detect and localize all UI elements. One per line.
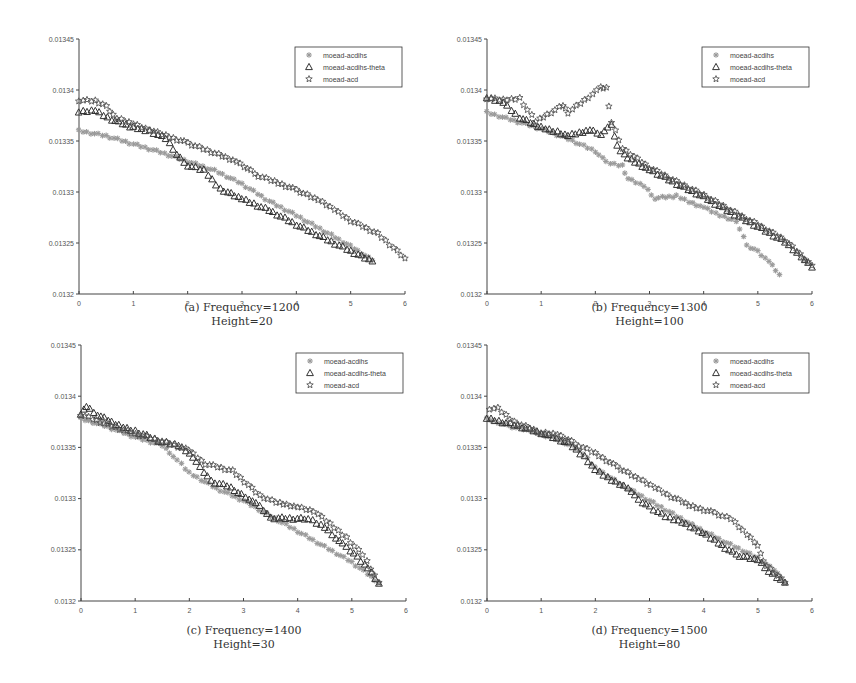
legend-label: moead-acdihs xyxy=(730,52,774,59)
y-tick-label: 0.01335 xyxy=(457,138,482,145)
x-tick-label: 4 xyxy=(702,607,706,614)
series-moead-acdihs-theta xyxy=(483,415,788,585)
y-tick-label: 0.0132 xyxy=(53,291,75,298)
y-tick-label: 0.0134 xyxy=(53,87,75,94)
chart-canvas: 0.01320.013250.01330.013350.01340.013450… xyxy=(0,0,856,683)
legend-label: moead-acdihs-theta xyxy=(730,64,792,71)
x-tick-label: 4 xyxy=(296,607,300,614)
x-tick-label: 0 xyxy=(79,607,83,614)
legend: moead-acdihsmoead-acdihs-thetamoead-acd xyxy=(296,353,403,393)
legend: moead-acdihsmoead-acdihs-thetamoead-acd xyxy=(295,47,402,87)
legend-label: moead-acd xyxy=(730,76,765,83)
legend-label: moead-acd xyxy=(730,382,765,389)
y-tick-label: 0.0133 xyxy=(55,495,77,502)
y-tick-label: 0.01325 xyxy=(457,546,482,553)
series-moead-acd xyxy=(77,412,382,585)
y-tick-label: 0.0133 xyxy=(461,189,483,196)
y-tick-label: 0.0133 xyxy=(53,189,75,196)
x-tick-label: 0 xyxy=(485,607,489,614)
caption-b-line2: Height=100 xyxy=(487,315,812,328)
x-tick-label: 1 xyxy=(539,607,543,614)
panel-d: 0.01320.013250.01330.013350.01340.013450… xyxy=(457,342,814,615)
y-tick-label: 0.0132 xyxy=(55,598,77,605)
series-moead-acd xyxy=(75,96,408,261)
panel-c: 0.01320.013250.01330.013350.01340.013450… xyxy=(51,342,408,615)
y-tick-label: 0.01335 xyxy=(51,444,76,451)
caption-b-line1: (b) Frequency=1300 xyxy=(487,301,812,314)
legend-label: moead-acd xyxy=(323,76,358,83)
y-tick-label: 0.01335 xyxy=(49,138,74,145)
figure: 0.01320.013250.01330.013350.01340.013450… xyxy=(0,0,856,683)
caption-c-line2: Height=30 xyxy=(81,638,407,651)
x-tick-label: 1 xyxy=(133,607,137,614)
x-tick-label: 3 xyxy=(648,607,652,614)
x-tick-label: 5 xyxy=(756,607,760,614)
caption-d-line1: (d) Frequency=1500 xyxy=(487,624,812,637)
legend-label: moead-acdihs-theta xyxy=(323,64,385,71)
y-tick-label: 0.01345 xyxy=(51,342,76,349)
series-moead-acdihs xyxy=(78,415,382,585)
x-tick-label: 2 xyxy=(187,607,191,614)
legend-label: moead-acd xyxy=(324,382,359,389)
y-tick-label: 0.0133 xyxy=(461,495,483,502)
x-tick-label: 5 xyxy=(350,607,354,614)
y-tick-label: 0.01325 xyxy=(49,240,74,247)
legend-label: moead-acdihs xyxy=(324,358,368,365)
caption-a-line1: (a) Frequency=1200 xyxy=(79,301,405,314)
y-tick-label: 0.0132 xyxy=(461,598,483,605)
y-tick-label: 0.01345 xyxy=(49,36,74,43)
legend-label: moead-acdihs xyxy=(323,52,367,59)
y-tick-label: 0.01325 xyxy=(51,546,76,553)
legend-label: moead-acdihs-theta xyxy=(324,370,386,377)
y-tick-label: 0.01325 xyxy=(457,240,482,247)
y-tick-label: 0.0134 xyxy=(55,393,77,400)
y-tick-label: 0.0134 xyxy=(461,393,483,400)
caption-a-line2: Height=20 xyxy=(79,315,405,328)
series-moead-acdihs xyxy=(484,109,782,278)
y-tick-label: 0.01345 xyxy=(457,36,482,43)
caption-d-line2: Height=80 xyxy=(487,638,812,651)
y-tick-label: 0.0134 xyxy=(461,87,483,94)
legend: moead-acdihsmoead-acdihs-thetamoead-acd xyxy=(702,353,809,393)
x-tick-label: 6 xyxy=(404,607,408,614)
legend: moead-acdihsmoead-acdihs-thetamoead-acd xyxy=(702,47,809,87)
x-tick-label: 6 xyxy=(810,607,814,614)
x-tick-label: 2 xyxy=(593,607,597,614)
series-moead-acdihs-theta xyxy=(75,107,376,264)
legend-label: moead-acdihs-theta xyxy=(730,370,792,377)
series-moead-acd xyxy=(483,84,815,269)
caption-c-line1: (c) Frequency=1400 xyxy=(81,624,407,637)
x-tick-label: 3 xyxy=(242,607,246,614)
series-moead-acdihs-theta xyxy=(77,403,382,586)
y-tick-label: 0.01335 xyxy=(457,444,482,451)
legend-label: moead-acdihs xyxy=(730,358,774,365)
panel-a: 0.01320.013250.01330.013350.01340.013450… xyxy=(49,36,409,308)
panel-b: 0.01320.013250.01330.013350.01340.013450… xyxy=(457,36,816,308)
y-tick-label: 0.0132 xyxy=(461,291,483,298)
y-tick-label: 0.01345 xyxy=(457,342,482,349)
